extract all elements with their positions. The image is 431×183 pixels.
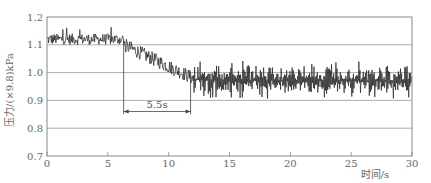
x-tick-label: 5 [105,158,111,169]
x-tick-label: 10 [162,158,175,169]
arrow-head-left-icon [124,110,129,114]
plot-frame [47,17,412,156]
x-axis-ticks: 051015202530 [44,152,419,169]
y-tick-label: 0.9 [27,95,43,106]
pressure-signal-line [47,27,412,98]
duration-label: 5.5s [147,99,168,110]
pressure-time-chart: 0.70.80.91.01.11.2 051015202530 压力/(×9.8… [0,0,431,183]
y-tick-label: 1.0 [27,67,43,78]
x-axis-title: 时间/s [361,168,390,180]
gridlines [47,45,412,128]
y-axis-title: 压力/(×9.8)kPa [3,53,15,127]
y-tick-label: 0.7 [27,151,43,162]
x-tick-label: 20 [284,158,297,169]
x-tick-label: 30 [406,158,419,169]
x-tick-label: 25 [345,158,358,169]
x-tick-label: 0 [44,158,50,169]
x-tick-label: 15 [223,158,236,169]
y-tick-label: 1.1 [27,39,43,50]
y-axis-ticks: 0.70.80.91.01.11.2 [27,12,43,162]
y-tick-label: 0.8 [27,123,43,134]
arrow-head-right-icon [186,110,191,114]
signal-path [47,27,412,98]
y-tick-label: 1.2 [27,12,43,23]
